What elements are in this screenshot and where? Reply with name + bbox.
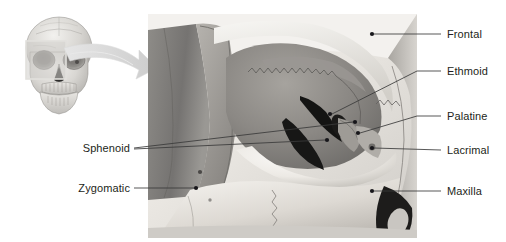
- label-sphenoid: Sphenoid: [0, 142, 130, 154]
- dot-sphenoid-b: [325, 138, 329, 142]
- orbit-detail-art: [148, 14, 417, 238]
- dot-frontal: [370, 32, 374, 36]
- label-maxilla: Maxilla: [447, 185, 482, 197]
- orbit-region-highlight: [26, 41, 66, 79]
- anatomy-figure: Frontal Ethmoid Palatine Lacrimal Maxill…: [0, 0, 506, 242]
- dot-zygomatic: [194, 186, 198, 190]
- dot-sphenoid-a: [353, 120, 357, 124]
- label-lacrimal: Lacrimal: [447, 144, 489, 156]
- figure-artwork: [0, 0, 506, 242]
- dot-palatine: [356, 131, 360, 135]
- label-ethmoid: Ethmoid: [447, 65, 488, 77]
- label-frontal: Frontal: [447, 28, 482, 40]
- dot-lacrimal: [370, 146, 374, 150]
- dot-maxilla: [370, 189, 374, 193]
- label-palatine: Palatine: [447, 110, 488, 122]
- label-zygomatic: Zygomatic: [0, 182, 130, 194]
- dot-ethmoid: [328, 112, 332, 116]
